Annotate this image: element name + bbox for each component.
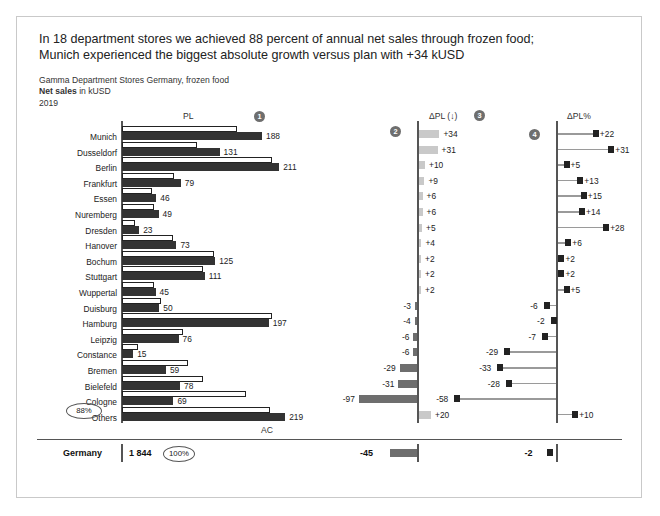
value-delta-pl: -3 <box>381 302 411 311</box>
value-actual: 50 <box>163 304 172 313</box>
row-label: Wuppertal <box>37 288 117 298</box>
lollipop-dot <box>564 286 570 293</box>
column-header-delta-pct: ΔPL% <box>567 111 591 121</box>
row-label: Dresden <box>37 226 117 236</box>
bar-actual <box>122 366 166 374</box>
bar-delta-pl <box>419 411 431 419</box>
bar-delta-pl <box>419 130 439 138</box>
value-actual: 49 <box>163 210 172 219</box>
value-delta-pct: -29 <box>470 348 498 357</box>
value-delta-pl: +2 <box>425 270 435 279</box>
total-axis-3 <box>556 444 558 462</box>
value-delta-pl: -6 <box>379 348 409 357</box>
marker-4: 4 <box>529 129 540 140</box>
lollipop-line <box>508 383 556 385</box>
value-actual: 46 <box>160 194 169 203</box>
lollipop-dot <box>506 380 512 387</box>
bar-delta-pl <box>419 255 421 263</box>
bar-actual <box>122 210 159 218</box>
value-delta-pl: +20 <box>435 411 449 420</box>
bar-actual <box>122 148 220 156</box>
value-delta-pl: +2 <box>425 286 435 295</box>
total-value-delta-pl: -45 <box>360 448 373 458</box>
value-delta-pct: -7 <box>508 333 536 342</box>
value-actual: 79 <box>185 179 194 188</box>
bar-actual <box>122 163 279 171</box>
bar-delta-pl <box>400 364 417 372</box>
value-delta-pct: +6 <box>572 239 582 248</box>
bar-delta-pl <box>359 395 417 403</box>
total-lollipop-dot <box>547 449 553 456</box>
bar-delta-pl <box>419 208 423 216</box>
row-label: Bochum <box>37 257 117 267</box>
total-label: Germany <box>63 448 102 458</box>
lollipop-dot <box>454 395 460 402</box>
value-actual: 211 <box>283 163 296 172</box>
value-actual: 125 <box>219 257 233 266</box>
value-delta-pl: +2 <box>425 255 435 264</box>
value-delta-pct: +28 <box>610 224 624 233</box>
bar-delta-pl <box>419 192 423 200</box>
value-delta-pl: +6 <box>427 208 437 217</box>
value-delta-pl: -29 <box>366 364 396 373</box>
value-actual: 219 <box>289 413 303 422</box>
value-actual: 69 <box>177 397 186 406</box>
lollipop-dot <box>564 161 570 168</box>
column-footer-ac: AC <box>261 425 273 435</box>
bar-actual <box>122 241 176 249</box>
value-delta-pct: +2 <box>565 270 575 279</box>
value-delta-pct: -28 <box>472 380 500 389</box>
value-delta-pct: +5 <box>571 286 581 295</box>
row-label: Bremen <box>37 366 117 376</box>
value-delta-pct: +15 <box>588 192 602 201</box>
lollipop-dot <box>504 348 510 355</box>
lollipop-dot <box>579 208 585 215</box>
value-delta-pct: -58 <box>420 395 448 404</box>
lollipop-dot <box>497 364 503 371</box>
value-actual: 188 <box>266 132 280 141</box>
lollipop-line <box>558 133 596 135</box>
bar-delta-pl <box>419 177 424 185</box>
bar-actual <box>122 319 269 327</box>
bar-delta-pl <box>413 348 417 356</box>
value-delta-pl: +31 <box>442 146 456 155</box>
chart-canvas: PLΔPL (↓)ΔPL%1234Munich188+34+22Dusseldo… <box>17 17 643 499</box>
lollipop-dot <box>608 146 614 153</box>
bar-actual <box>122 413 285 421</box>
value-delta-pl: +4 <box>425 239 435 248</box>
value-delta-pct: +2 <box>565 255 575 264</box>
value-actual: 111 <box>209 272 222 281</box>
value-delta-pl: -97 <box>325 395 355 404</box>
row-label: Essen <box>37 194 117 204</box>
total-bar-delta-pl <box>390 449 417 457</box>
value-actual: 197 <box>273 319 287 328</box>
bar-actual <box>122 304 159 312</box>
value-actual: 131 <box>224 148 238 157</box>
lollipop-dot <box>572 411 578 418</box>
lollipop-dot <box>558 270 564 277</box>
row-label: Hanover <box>37 241 117 251</box>
value-delta-pl: +5 <box>426 224 436 233</box>
value-actual: 78 <box>184 382 193 391</box>
bar-actual <box>122 179 181 187</box>
value-delta-pl: +9 <box>428 177 438 186</box>
row-label: Frankfurt <box>37 179 117 189</box>
bar-delta-pl <box>415 317 417 325</box>
value-delta-pl: +10 <box>429 161 443 170</box>
row-label: Berlin <box>37 163 117 173</box>
lollipop-dot <box>603 224 609 231</box>
column-header-pl: PL <box>183 111 194 121</box>
bar-actual <box>122 132 262 140</box>
value-delta-pct: +14 <box>586 208 600 217</box>
lollipop-line <box>456 398 556 400</box>
lollipop-dot <box>565 239 571 246</box>
value-delta-pct: +22 <box>600 130 614 139</box>
column-header-delta-pl: ΔPL (↓) <box>429 111 457 121</box>
row-label: Munich <box>37 132 117 142</box>
value-delta-pct: +10 <box>579 411 593 420</box>
bar-actual <box>122 288 156 296</box>
bar-delta-pl <box>413 333 417 341</box>
bar-actual <box>122 257 215 265</box>
lollipop-line <box>558 227 606 229</box>
lollipop-line <box>506 351 556 353</box>
